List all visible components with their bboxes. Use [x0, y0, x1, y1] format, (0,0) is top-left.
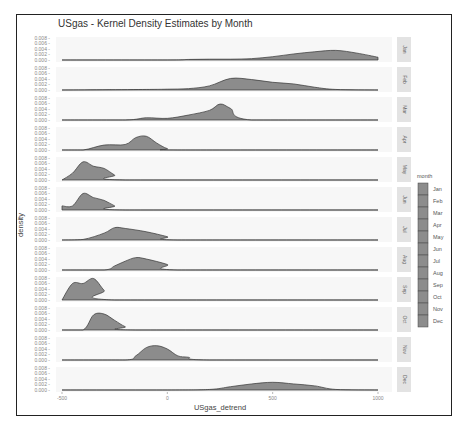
y-tick-label: 0.006 -	[34, 250, 50, 256]
y-tick-label: 0.000 -	[34, 117, 50, 123]
facet-panel-jan: 0.000 -0.002 -0.004 -0.006 -0.008 -Jan	[34, 35, 411, 63]
facet-strip-label: Jun	[402, 195, 408, 203]
legend-label: Oct	[433, 294, 442, 300]
legend-swatch	[418, 291, 428, 303]
y-tick-label: 0.000 -	[34, 387, 50, 393]
y-tick-label: 0.000 -	[34, 57, 50, 63]
facet-strip-label: Dec	[402, 375, 408, 384]
facet-strip-label: May	[402, 165, 408, 175]
facet-panel-aug: 0.000 -0.002 -0.004 -0.006 -0.008 -Aug	[34, 245, 411, 273]
y-tick-label: 0.006 -	[34, 130, 50, 136]
legend-swatch	[418, 279, 428, 291]
facet-strip-label: Aug	[402, 255, 408, 264]
legend-title: month	[417, 173, 432, 179]
legend-swatch	[418, 219, 428, 231]
y-tick-label: 0.000 -	[34, 357, 50, 363]
y-tick-label: 0.000 -	[34, 207, 50, 213]
facet-panel-apr: 0.000 -0.002 -0.004 -0.006 -0.008 -Apr	[34, 125, 411, 153]
legend-swatch	[418, 195, 428, 207]
legend-swatch	[418, 243, 428, 255]
facet-strip-label: Apr	[402, 136, 408, 144]
y-tick-label: 0.000 -	[34, 267, 50, 273]
x-tick-label: 500	[268, 395, 277, 401]
y-tick-label: 0.004 -	[34, 196, 50, 202]
legend-swatch	[418, 207, 428, 219]
y-tick-label: 0.008 -	[34, 125, 50, 131]
y-axis-label: density	[16, 213, 25, 237]
legend-label: Jun	[433, 246, 442, 252]
legend-swatch	[418, 303, 428, 315]
legend-swatch	[418, 231, 428, 243]
facet-strip-label: Feb	[402, 75, 408, 84]
y-tick-label: 0.004 -	[34, 106, 50, 112]
y-tick-label: 0.004 -	[34, 376, 50, 382]
y-tick-label: 0.002 -	[34, 321, 50, 327]
legend-swatch	[418, 183, 428, 195]
y-tick-label: 0.004 -	[34, 76, 50, 82]
x-axis: -50005001000	[57, 392, 384, 401]
y-tick-label: 0.000 -	[34, 327, 50, 333]
facet-panel-sep: 0.000 -0.002 -0.004 -0.006 -0.008 -Sep	[34, 275, 411, 303]
y-tick-label: 0.006 -	[34, 340, 50, 346]
legend-label: Nov	[433, 306, 443, 312]
y-tick-label: 0.002 -	[34, 381, 50, 387]
legend-swatch	[418, 315, 428, 327]
y-tick-label: 0.002 -	[34, 201, 50, 207]
y-tick-label: 0.006 -	[34, 220, 50, 226]
y-tick-label: 0.002 -	[34, 291, 50, 297]
y-tick-label: 0.008 -	[34, 275, 50, 281]
y-tick-label: 0.002 -	[34, 171, 50, 177]
y-tick-label: 0.000 -	[34, 237, 50, 243]
facet-strip-label: Oct	[402, 316, 408, 324]
facet-panel-feb: 0.000 -0.002 -0.004 -0.006 -0.008 -Feb	[34, 65, 411, 93]
y-tick-label: 0.000 -	[34, 297, 50, 303]
facet-strip-label: Jul	[402, 226, 408, 232]
facet-panel-dec: 0.000 -0.002 -0.004 -0.006 -0.008 -Dec	[34, 365, 411, 393]
y-tick-label: 0.008 -	[34, 35, 50, 41]
y-tick-label: 0.004 -	[34, 136, 50, 142]
facet-strip-label: Sep	[402, 285, 408, 294]
facet-panel-nov: 0.000 -0.002 -0.004 -0.006 -0.008 -Nov	[34, 335, 411, 363]
y-tick-label: 0.008 -	[34, 155, 50, 161]
x-tick-label: 1000	[372, 395, 383, 401]
y-tick-label: 0.008 -	[34, 65, 50, 71]
facet-panel-mar: 0.000 -0.002 -0.004 -0.006 -0.008 -Mar	[34, 95, 411, 123]
legend-label: Jan	[433, 186, 442, 192]
y-tick-label: 0.006 -	[34, 370, 50, 376]
x-axis-label: USgas_detrend	[194, 403, 246, 412]
legend-label: Apr	[433, 222, 442, 228]
y-tick-label: 0.004 -	[34, 316, 50, 322]
legend-label: Feb	[433, 198, 442, 204]
chart-title: USgas - Kernel Density Estimates by Mont…	[58, 18, 253, 29]
legend-label: May	[433, 234, 444, 240]
y-tick-label: 0.004 -	[34, 166, 50, 172]
y-tick-label: 0.000 -	[34, 87, 50, 93]
y-tick-label: 0.008 -	[34, 305, 50, 311]
y-tick-label: 0.002 -	[34, 231, 50, 237]
x-tick-label: -500	[57, 395, 67, 401]
y-tick-label: 0.004 -	[34, 226, 50, 232]
facet-strip-label: Jan	[402, 45, 408, 53]
facet-strip-label: Nov	[402, 345, 408, 354]
legend-label: Aug	[433, 270, 443, 276]
legend-label: Jul	[433, 258, 440, 264]
y-tick-label: 0.002 -	[34, 141, 50, 147]
facet-panel-jun: 0.000 -0.002 -0.004 -0.006 -0.008 -Jun	[34, 185, 411, 213]
y-tick-label: 0.008 -	[34, 185, 50, 191]
legend-swatch	[418, 255, 428, 267]
y-tick-label: 0.002 -	[34, 81, 50, 87]
y-tick-label: 0.000 -	[34, 177, 50, 183]
y-tick-label: 0.004 -	[34, 256, 50, 262]
legend-label: Mar	[433, 210, 443, 216]
y-tick-label: 0.008 -	[34, 215, 50, 221]
legend-label: Dec	[433, 318, 443, 324]
y-tick-label: 0.000 -	[34, 147, 50, 153]
y-tick-label: 0.006 -	[34, 280, 50, 286]
legend-swatch	[418, 267, 428, 279]
facet-strip-label: Mar	[402, 105, 408, 114]
y-tick-label: 0.006 -	[34, 160, 50, 166]
facet-panels: 0.000 -0.002 -0.004 -0.006 -0.008 -Jan0.…	[34, 35, 411, 393]
y-tick-label: 0.004 -	[34, 46, 50, 52]
y-tick-label: 0.004 -	[34, 346, 50, 352]
y-tick-label: 0.002 -	[34, 261, 50, 267]
